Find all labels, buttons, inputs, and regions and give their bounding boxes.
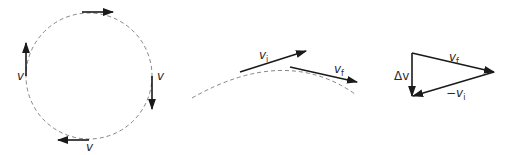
delta-velocity-label: Δv bbox=[394, 69, 409, 83]
initial-velocity-label: vi bbox=[259, 48, 268, 64]
velocity-change-diagram: v v v vi vf Δv vf −vi bbox=[0, 0, 514, 155]
final-velocity-label: vf bbox=[334, 62, 344, 78]
circular-path bbox=[26, 13, 152, 139]
triangle-final-velocity-label: vf bbox=[449, 50, 459, 66]
arc-panel: vi vf bbox=[192, 48, 357, 98]
right-velocity-label: v bbox=[157, 69, 165, 83]
bottom-velocity-label: v bbox=[86, 140, 94, 154]
arc-path bbox=[192, 70, 355, 98]
circle-panel: v v v bbox=[17, 12, 165, 154]
triangle-panel: Δv vf −vi bbox=[394, 50, 494, 102]
left-velocity-label: v bbox=[17, 69, 25, 83]
final-velocity-arrow bbox=[290, 67, 357, 82]
triangle-negative-initial-label: −vi bbox=[446, 86, 465, 102]
